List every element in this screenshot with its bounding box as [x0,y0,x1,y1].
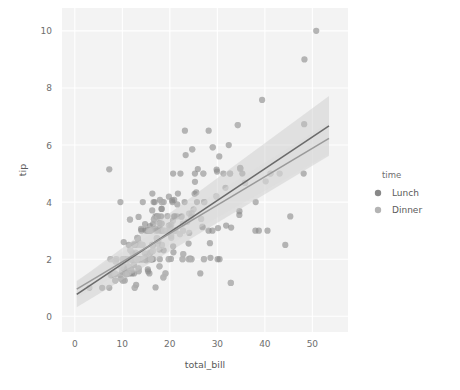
data-point [159,199,165,205]
legend-marker-dinner[interactable] [375,207,381,213]
x-tick-label: 40 [259,339,271,349]
chart-figure: 010203040500246810total_billtip timeLunc… [0,0,460,390]
data-point [150,199,156,205]
y-tick-label: 4 [46,198,52,208]
data-point [264,228,270,234]
data-point [197,270,203,276]
y-tick-label: 0 [46,312,52,322]
y-tick-label: 8 [46,83,52,93]
data-point [200,170,206,176]
data-point [156,263,162,269]
data-point [207,255,213,261]
data-point [127,216,133,222]
x-tick-label: 10 [117,339,129,349]
data-point [146,270,152,276]
data-point [149,207,155,213]
data-point [189,146,195,152]
data-point [206,128,212,134]
data-point [214,166,220,172]
data-point [201,256,207,262]
scatter-plot-svg: 010203040500246810total_billtip timeLunc… [0,0,460,390]
data-point [313,28,319,34]
y-axis-title: tip [17,164,28,176]
data-point [216,153,222,159]
data-point [140,199,146,205]
data-point [135,214,141,220]
data-point [166,194,172,200]
data-point [166,256,172,262]
y-tick-label: 6 [46,141,52,151]
data-point [192,179,198,185]
data-point [180,251,186,257]
data-point [210,144,216,150]
data-point [155,213,161,219]
data-point [177,170,183,176]
data-point [207,240,213,246]
data-point [195,166,201,172]
data-point [226,142,232,148]
data-point [149,190,155,196]
x-tick-label: 20 [164,339,176,349]
y-tick-label: 10 [41,26,53,36]
x-axis-title: total_bill [185,359,225,370]
data-point [182,128,188,134]
data-point [301,56,307,62]
data-point [175,190,181,196]
data-point [228,224,234,230]
data-point [183,152,189,158]
x-tick-label: 30 [212,339,224,349]
legend-label-dinner[interactable]: Dinner [392,205,422,215]
data-point [259,97,265,103]
data-point [160,274,166,280]
data-point [228,280,234,286]
data-point [235,122,241,128]
data-point [215,225,221,231]
data-point [158,206,164,212]
data-point [152,284,158,290]
legend-marker-lunch[interactable] [375,190,381,196]
data-point [169,199,175,205]
legend-label-lunch[interactable]: Lunch [392,188,419,198]
data-point [287,213,293,219]
data-point [170,170,176,176]
data-point [117,199,123,205]
data-point [106,166,112,172]
y-tick-label: 2 [46,255,52,265]
data-point [282,242,288,248]
legend-title: time [382,170,401,180]
data-point [256,228,262,234]
x-tick-label: 50 [307,339,319,349]
data-point [188,256,194,262]
data-point [132,285,138,291]
x-tick-label: 0 [72,339,78,349]
data-point [215,256,221,262]
